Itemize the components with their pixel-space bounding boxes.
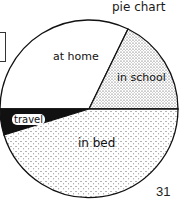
label-at-home: at home	[53, 50, 99, 63]
pie-chart	[0, 0, 188, 215]
page-number: 31	[156, 184, 170, 199]
label-in-bed: in bed	[78, 136, 115, 150]
label-travel: travel	[12, 114, 45, 125]
label-in-school: in school	[117, 71, 166, 84]
